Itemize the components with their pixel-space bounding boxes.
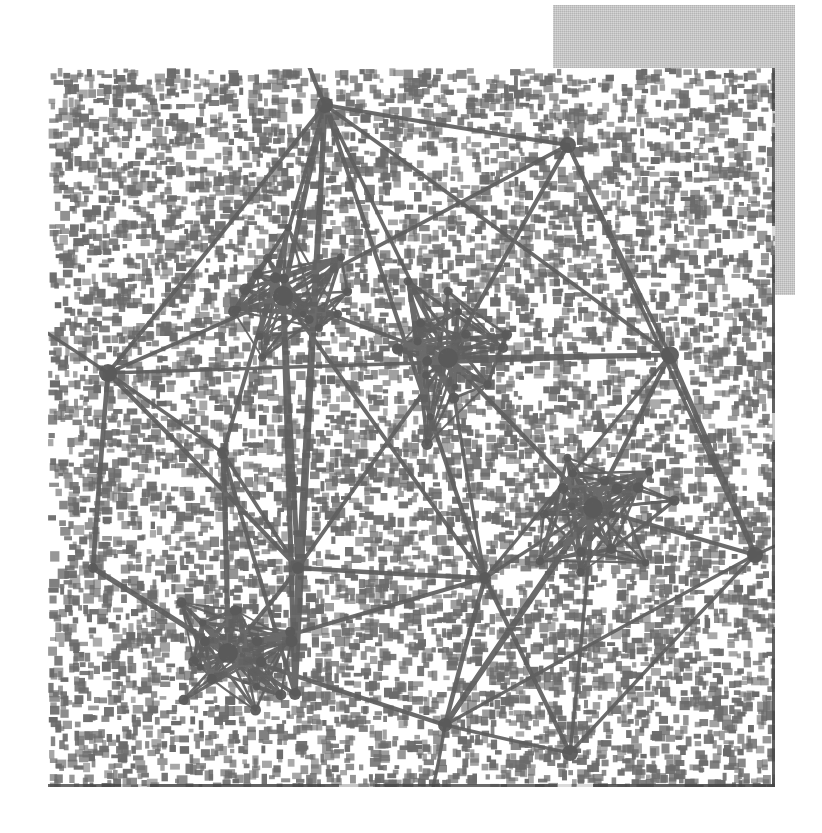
- graph-svg: [48, 68, 775, 787]
- scanned-figure-plate: [48, 68, 775, 787]
- figure-page: [0, 0, 822, 833]
- network-graph: [48, 68, 775, 787]
